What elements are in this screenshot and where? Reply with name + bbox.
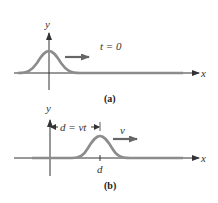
d-tick-label: d: [97, 163, 103, 175]
wave-pulse: [18, 51, 183, 73]
y-axis-label: y: [45, 102, 51, 114]
x-axis-label: x: [200, 152, 206, 164]
velocity-label: v: [120, 124, 125, 136]
panel-b: d = vt v y x d (b): [14, 102, 206, 192]
y-axis-label: y: [44, 18, 50, 30]
caption-a: (a): [104, 93, 116, 105]
time-label: t = 0: [100, 40, 122, 52]
traveling-wave-pulse-diagram: y x t = 0 (a) d = vt v y x d (b): [0, 0, 218, 203]
wave-pulse: [32, 136, 183, 158]
panel-a: y x t = 0 (a): [14, 18, 206, 105]
caption-b: (b): [104, 180, 116, 192]
diagram-svg: y x t = 0 (a) d = vt v y x d (b): [0, 0, 218, 203]
x-axis-label: x: [200, 67, 206, 79]
distance-label: d = vt: [60, 121, 87, 133]
